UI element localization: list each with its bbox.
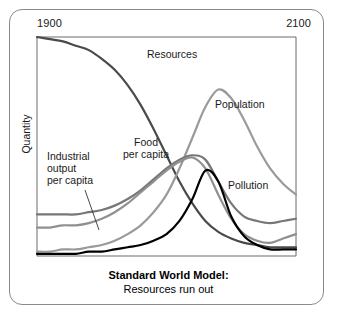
- figure-caption: Standard World Model: Resources run out: [0, 268, 337, 296]
- x-axis-end-label: 2100: [286, 17, 311, 29]
- series-label-food-per-capita: Food per capita: [123, 136, 169, 160]
- chart-figure: 1900 2100 Quantity Resources Population …: [0, 0, 337, 322]
- x-axis-start-label: 1900: [37, 17, 62, 29]
- caption-subtitle: Resources run out: [0, 282, 337, 296]
- series-label-resources: Resources: [147, 48, 197, 60]
- series-label-pollution: Pollution: [228, 179, 268, 191]
- series-label-population: Population: [215, 98, 265, 110]
- y-axis-label: Quantity: [20, 99, 32, 169]
- caption-title: Standard World Model:: [0, 268, 337, 282]
- series-label-industrial-output-per-capita: Industrial output per capita: [47, 150, 93, 186]
